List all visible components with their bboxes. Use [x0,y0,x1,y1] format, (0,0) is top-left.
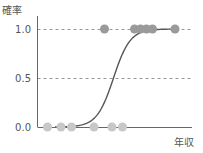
data-point-observed-0 [118,123,127,132]
data-point-observed-1 [148,25,157,34]
logistic-regression-chart: 確率 年収 0.00.51.0 [0,0,203,153]
data-point-observed-0 [67,123,76,132]
data-point-observed-0 [43,123,52,132]
data-point-observed-1 [171,25,180,34]
x-axis-title: 年収 [174,136,194,148]
y-tick-label: 0.0 [15,122,31,133]
data-point-observed-0 [57,123,66,132]
data-point-observed-1 [100,25,109,34]
y-tick-label: 0.5 [15,73,31,84]
y-tick-label: 1.0 [15,24,31,35]
data-point-observed-0 [108,123,117,132]
logistic-curve [55,29,175,127]
y-axis-title: 確率 [2,4,22,16]
data-point-observed-0 [90,123,99,132]
